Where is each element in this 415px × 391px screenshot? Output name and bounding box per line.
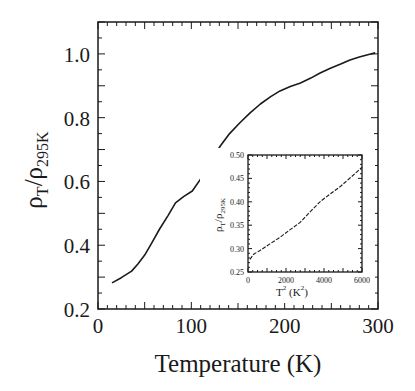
x-tick-label: 300 xyxy=(362,314,394,338)
main-y-tick-labels: 0.20.40.60.81.0 xyxy=(64,43,91,322)
y-tick-label: 0.8 xyxy=(64,107,90,131)
chart: 0100200300 0.20.40.60.81.0 Temperature (… xyxy=(0,0,415,391)
y-tick-label: 0.35 xyxy=(230,221,244,230)
inset-x-axis-title: T2 (K2) xyxy=(276,284,308,299)
x-tick-label: 200 xyxy=(269,314,301,338)
y-tick-label: 1.0 xyxy=(64,43,90,67)
y-tick-label: 0.4 xyxy=(64,234,91,258)
y-tick-label: 0.40 xyxy=(230,198,244,207)
y-tick-label: 0.50 xyxy=(230,151,244,160)
inset-plot: 0200040006000 0.250.300.350.400.450.50 T… xyxy=(200,148,375,303)
x-tick-label: 0 xyxy=(93,314,104,338)
y-tick-label: 0.45 xyxy=(230,174,244,183)
main-y-axis-title: ρT/ρ295K xyxy=(20,131,51,209)
main-x-tick-labels: 0100200300 xyxy=(93,314,394,338)
y-tick-label: 0.30 xyxy=(230,245,244,254)
x-tick-label: 6000 xyxy=(354,276,370,285)
x-tick-label: 100 xyxy=(176,314,208,338)
y-tick-label: 0.6 xyxy=(64,170,90,194)
x-tick-label: 4000 xyxy=(316,276,332,285)
y-tick-label: 0.25 xyxy=(230,268,244,277)
main-x-axis-title: Temperature (K) xyxy=(155,350,322,378)
x-tick-label: 0 xyxy=(246,276,250,285)
y-tick-label: 0.2 xyxy=(64,298,90,322)
